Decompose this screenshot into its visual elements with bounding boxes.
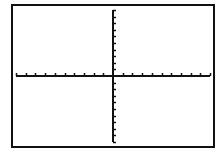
graph-screen bbox=[11, 4, 215, 148]
graph-canvas bbox=[13, 6, 213, 146]
